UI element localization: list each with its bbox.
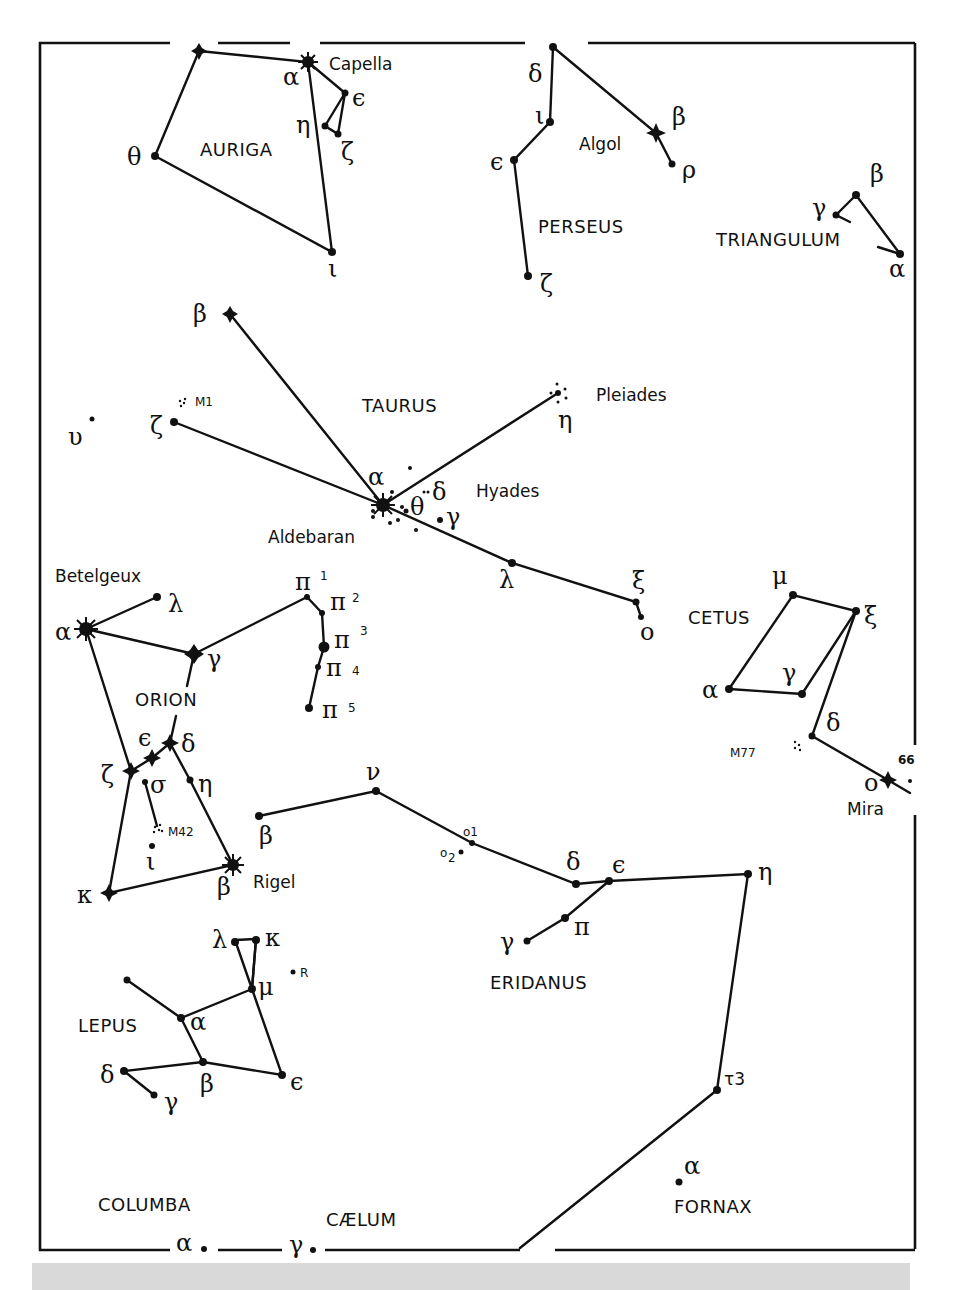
- greek-taurus-xi: ξ: [632, 567, 645, 595]
- greek-columba-alpha: α: [176, 1229, 192, 1257]
- greek-eridanus-o2-sub: 2: [448, 851, 456, 865]
- greek-eridanus-pi: π: [574, 913, 590, 941]
- greek-perseus-zeta: ζ: [540, 270, 553, 298]
- greek-orion-gamma: γ: [207, 645, 221, 673]
- greek-perseus-delta: δ: [528, 60, 542, 88]
- greek-orion-eta: η: [198, 770, 212, 798]
- greek-taurus-theta: θ: [410, 493, 424, 521]
- chart-border: [40, 43, 915, 1250]
- m77-nebula-icon: [794, 741, 801, 751]
- greek-cetus-gamma: γ: [782, 659, 796, 687]
- greek-fornax-alpha: α: [684, 1152, 700, 1180]
- label-mira: Mira: [847, 799, 884, 819]
- greek-eridanus-eta: η: [758, 858, 772, 886]
- greek-lepus-beta: β: [200, 1070, 214, 1098]
- greek-orion-pi1: π: [295, 568, 311, 596]
- greek-auriga-zeta: ζ: [341, 138, 354, 166]
- label-rigel: Rigel: [253, 872, 296, 892]
- greek-perseus-rho: ρ: [682, 156, 696, 184]
- greek-orion-zeta: ζ: [101, 761, 114, 789]
- greek-cetus-66: 66: [898, 753, 915, 767]
- caelum-gamma-star: [310, 1247, 316, 1253]
- greek-orion-iota: ι: [146, 848, 155, 876]
- label-taurus: TAURUS: [361, 395, 437, 416]
- label-m77: M77: [730, 746, 756, 760]
- constellation-eridanus: [255, 787, 752, 1248]
- m1-nebula-icon: [179, 398, 186, 407]
- label-capella: Capella: [329, 54, 392, 74]
- greek-orion-sigma: σ: [150, 771, 166, 799]
- greek-orion-pi4-sup: 4: [352, 664, 360, 678]
- label-pleiades: Pleiades: [596, 385, 667, 405]
- greek-taurus-beta: β: [193, 300, 207, 328]
- columba-alpha-star: [201, 1246, 207, 1252]
- star-icon: [100, 884, 118, 902]
- greek-lepus-alpha: α: [190, 1008, 206, 1036]
- greek-orion-pi3: π: [334, 626, 350, 654]
- greek-perseus-iota: ι: [535, 102, 544, 130]
- greek-cetus-delta: δ: [826, 709, 840, 737]
- greek-orion-pi5: π: [322, 696, 338, 724]
- greek-orion-pi2: π: [330, 588, 346, 616]
- greek-triangulum-alpha: α: [889, 255, 905, 283]
- greek-orion-delta: δ: [181, 730, 195, 758]
- greek-orion-pi3-sup: 3: [360, 624, 368, 638]
- greek-cetus-alpha: α: [702, 676, 718, 704]
- greek-eridanus-o1: o1: [463, 825, 478, 839]
- greek-taurus-alpha: α: [368, 463, 384, 491]
- greek-lepus-kappa: κ: [265, 924, 280, 952]
- pleiades-cluster-icon: [550, 383, 568, 404]
- label-algol: Algol: [579, 134, 621, 154]
- label-hyades: Hyades: [476, 481, 540, 501]
- greek-orion-lambda: λ: [168, 590, 183, 618]
- greek-triangulum-gamma: γ: [812, 194, 826, 222]
- greek-auriga-iota: ι: [328, 255, 337, 283]
- label-cetus: CETUS: [688, 607, 750, 628]
- constellation-triangulum: [833, 191, 905, 258]
- greek-lepus-mu: μ: [258, 973, 274, 1001]
- fornax-alpha-star: [676, 1179, 683, 1186]
- greek-caelum-gamma: γ: [289, 1231, 303, 1259]
- aldebaran-star-icon: [371, 493, 395, 517]
- constellation-cetus: [725, 591, 912, 793]
- greek-taurus-zeta: ζ: [150, 412, 163, 440]
- mira-star-icon: [879, 771, 897, 789]
- star-icon: [191, 43, 207, 60]
- label-aldebaran: Aldebaran: [268, 527, 355, 547]
- greek-orion-pi5-sup: 5: [348, 701, 356, 715]
- greek-lepus-gamma: γ: [164, 1088, 178, 1116]
- label-eridanus: ERIDANUS: [490, 972, 587, 993]
- label-perseus: PERSEUS: [538, 216, 624, 237]
- greek-orion-pi2-sup: 2: [352, 591, 360, 605]
- greek-taurus-gamma: γ: [446, 503, 460, 531]
- greek-cetus-omicron: ο: [864, 769, 878, 797]
- greek-perseus-epsilon: ϵ: [490, 148, 503, 176]
- label-m42: M42: [168, 825, 194, 839]
- greek-eridanus-epsilon: ϵ: [612, 851, 625, 879]
- label-auriga: AURIGA: [200, 139, 273, 160]
- label-m1: M1: [195, 395, 213, 409]
- greek-orion-kappa: κ: [77, 881, 92, 909]
- greek-eridanus-delta: δ: [566, 848, 580, 876]
- greek-orion-alpha: α: [55, 618, 71, 646]
- label-r: R: [300, 966, 308, 980]
- greek-taurus-lambda: λ: [499, 566, 514, 594]
- greek-auriga-epsilon: ϵ: [352, 84, 365, 112]
- greek-auriga-alpha: α: [283, 63, 299, 91]
- label-caelum: CÆLUM: [326, 1209, 396, 1230]
- constellation-taurus: [90, 306, 645, 620]
- label-betelgeux: Betelgeux: [55, 566, 141, 586]
- greek-eridanus-gamma: γ: [500, 928, 514, 956]
- label-triangulum: TRIANGULUM: [715, 229, 841, 250]
- constellation-orion: [74, 593, 330, 902]
- greek-perseus-beta: β: [672, 103, 686, 131]
- greek-triangulum-beta: β: [870, 160, 884, 188]
- star-icon: [122, 762, 140, 780]
- greek-lepus-lambda: λ: [212, 926, 227, 954]
- greek-eridanus-beta: β: [259, 822, 273, 850]
- label-orion: ORION: [135, 689, 197, 710]
- betelgeux-star-icon: [74, 617, 98, 641]
- greek-auriga-eta: η: [296, 111, 310, 139]
- greek-eridanus-nu: ν: [366, 758, 381, 786]
- greek-eridanus-tau3: τ3: [724, 1069, 745, 1089]
